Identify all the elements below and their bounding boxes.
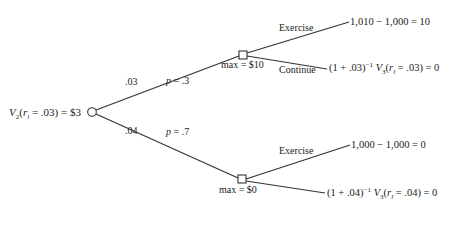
decision-tree-diagram: V2(rl = .03) = $3 .03 .04 p = .3 p = .7 … xyxy=(0,0,459,227)
action-label-lower-exercise: Exercise xyxy=(279,145,313,157)
outcome-lower-exercise: 1,000 − 1,000 = 0 xyxy=(351,139,426,151)
outcome-upper-exercise: 1,010 − 1,000 = 10 xyxy=(350,16,430,28)
prob-label-upper: p = .3 xyxy=(166,75,189,87)
root-sub: 2 xyxy=(16,113,20,121)
rest-upper: = .03) = 0 xyxy=(395,62,439,73)
root-label: V2(rl = .03) = $3 xyxy=(9,106,81,118)
action-label-upper-continue: Continue xyxy=(279,64,316,76)
decision-node-lower-icon xyxy=(238,175,246,183)
action-label-upper-exercise: Exercise xyxy=(279,22,313,34)
prob-label-lower: p = .7 xyxy=(166,126,189,138)
decision-label-upper: max = $10 xyxy=(221,59,264,71)
outcome-lower-continue: (1 + .04)−1 V3(rl = .04) = 0 xyxy=(327,187,437,199)
exp-lower: −1 xyxy=(364,186,371,194)
sub-lower: 3 xyxy=(380,193,384,201)
root-arg-rest: = .03) = $3 xyxy=(29,106,81,118)
decision-label-lower: max = $0 xyxy=(219,184,257,196)
rate-label-upper: .03 xyxy=(125,76,138,88)
edge-lower-continue xyxy=(246,181,325,193)
prob-rest-upper: = .3 xyxy=(171,75,189,86)
prob-rest-lower: = .7 xyxy=(171,126,189,137)
rate-label-lower: .04 xyxy=(125,125,138,137)
var-upper: V xyxy=(373,62,382,73)
edge-root-lower xyxy=(96,114,238,178)
exp-upper: −1 xyxy=(366,61,373,69)
var-lower: V xyxy=(371,187,380,198)
root-var: V xyxy=(9,106,16,118)
outcome-upper-continue: (1 + .03)−1 V3(rl = .03) = 0 xyxy=(329,62,439,74)
chance-node-icon xyxy=(88,108,97,117)
discount-upper: (1 + .03) xyxy=(329,62,366,73)
discount-lower: (1 + .04) xyxy=(327,187,364,198)
decision-node-upper-icon xyxy=(239,51,247,59)
sub-upper: 3 xyxy=(382,68,386,76)
rest-lower: = .04) = 0 xyxy=(393,187,437,198)
